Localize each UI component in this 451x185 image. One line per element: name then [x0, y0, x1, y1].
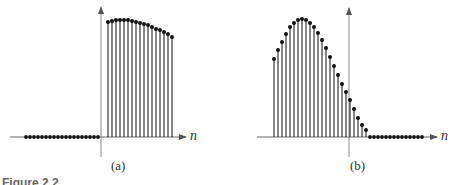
stem-dot: [138, 21, 142, 25]
zero-sample-dot: [80, 135, 84, 139]
stem-dot: [110, 19, 114, 23]
stem-dot: [328, 55, 332, 59]
stem-dot: [150, 25, 154, 29]
stem-dot: [288, 25, 292, 29]
stem-dot: [312, 25, 316, 29]
stem-dot: [154, 27, 158, 31]
stem-dot: [142, 22, 146, 26]
stem-dot: [332, 64, 336, 68]
panel-b-n-axis-label: n: [441, 128, 448, 144]
stem-dot: [320, 38, 324, 42]
zero-sample-dot: [396, 135, 400, 139]
stem-dot: [348, 98, 352, 102]
zero-sample-dot: [388, 135, 392, 139]
panel-b-caption: (b): [350, 158, 365, 174]
zero-sample-dot: [44, 135, 48, 139]
zero-sample-dot: [52, 135, 56, 139]
stem-dot: [324, 46, 328, 50]
stem-dot: [146, 23, 150, 27]
zero-sample-dot: [92, 135, 96, 139]
stem-dot: [300, 17, 304, 21]
stem-dot: [162, 30, 166, 34]
zero-sample-dot: [64, 135, 68, 139]
zero-sample-dot: [96, 135, 100, 139]
zero-sample-dot: [420, 135, 424, 139]
stem-dot: [356, 116, 360, 120]
stem-dot: [114, 18, 118, 22]
stem-dot: [280, 40, 284, 44]
stem-dot: [118, 18, 122, 22]
stem-dot: [276, 48, 280, 52]
stem-dot: [126, 18, 130, 22]
zero-sample-dot: [28, 135, 32, 139]
zero-sample-dot: [368, 135, 372, 139]
stem-dot: [166, 32, 170, 36]
stem-dot: [364, 128, 368, 132]
zero-sample-dot: [88, 135, 92, 139]
stem-dot: [158, 28, 162, 32]
zero-sample-dot: [24, 135, 28, 139]
zero-sample-dot: [68, 135, 72, 139]
zero-sample-dot: [72, 135, 76, 139]
stem-dot: [340, 82, 344, 86]
panel-a-right-sided-sequence: [10, 7, 186, 157]
stem-dot: [336, 73, 340, 77]
zero-sample-dot: [400, 135, 404, 139]
panel-a-n-axis-label: n: [190, 128, 197, 144]
stem-plots: [0, 0, 451, 185]
stem-dot: [292, 21, 296, 25]
zero-sample-dot: [76, 135, 80, 139]
zero-sample-dot: [404, 135, 408, 139]
stem-dot: [352, 107, 356, 111]
stem-dot: [122, 18, 126, 22]
stem-dot: [170, 35, 174, 39]
stem-dot: [308, 21, 312, 25]
zero-sample-dot: [32, 135, 36, 139]
panel-a-caption: (a): [111, 158, 125, 174]
zero-sample-dot: [48, 135, 52, 139]
figure-caption-cutoff: Figure 2.2: [2, 176, 59, 185]
stem-dot: [272, 57, 276, 61]
zero-sample-dot: [392, 135, 396, 139]
zero-sample-dot: [416, 135, 420, 139]
stem-dot: [296, 18, 300, 22]
stem-dot: [106, 20, 110, 24]
zero-sample-dot: [384, 135, 388, 139]
stem-dot: [130, 19, 134, 23]
stem-dot: [284, 32, 288, 36]
zero-sample-dot: [412, 135, 416, 139]
zero-sample-dot: [60, 135, 64, 139]
panel-b-left-sided-sequence: [257, 8, 437, 157]
zero-sample-dot: [376, 135, 380, 139]
zero-sample-dot: [36, 135, 40, 139]
stem-dot: [360, 123, 364, 127]
zero-sample-dot: [380, 135, 384, 139]
zero-sample-dot: [372, 135, 376, 139]
stem-dot: [304, 18, 308, 22]
zero-sample-dot: [40, 135, 44, 139]
stem-dot: [134, 20, 138, 24]
zero-sample-dot: [408, 135, 412, 139]
zero-sample-dot: [84, 135, 88, 139]
stem-dot: [316, 31, 320, 35]
stem-dot: [344, 90, 348, 94]
zero-sample-dot: [56, 135, 60, 139]
